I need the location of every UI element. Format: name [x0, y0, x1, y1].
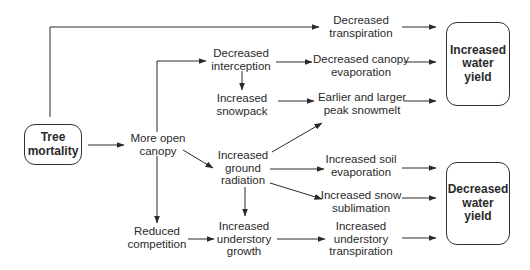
node-more-open-canopy: More open canopy [131, 132, 186, 157]
node-decreased-transpiration: Decreased transpiration [329, 14, 392, 39]
node-increased-snowpack: Increased snowpack [216, 92, 267, 117]
node-label-line: Decreased [329, 14, 392, 27]
node-increased-ground-radiation: Increased ground radiation [218, 149, 269, 187]
node-label-line: canopy [131, 145, 186, 158]
arrow-canopy-to-interception [157, 61, 206, 132]
node-increased-understory-growth: Increased understory growth [217, 220, 271, 258]
node-label-line: radiation [218, 174, 269, 187]
node-label-line: Increased [329, 220, 392, 233]
node-label-line: interception [211, 60, 270, 73]
node-increased-understory-transpiration: Increased understory transpiration [329, 220, 392, 258]
node-label-line: Increased soil [326, 153, 397, 166]
node-tree-mortality: Tree mortality [24, 124, 82, 165]
node-label-line: yield [448, 210, 509, 224]
node-label-line: yield [450, 71, 506, 85]
node-label-line: sublimation [321, 202, 402, 215]
node-label-line: competition [128, 238, 187, 251]
node-label-line: Increased [216, 92, 267, 105]
node-label-line: peak snowmelt [318, 104, 406, 117]
node-label-line: Earlier and larger [318, 91, 406, 104]
node-label-line: evaporation [326, 166, 397, 179]
node-label-line: understory [329, 233, 392, 246]
node-label-line: water [450, 57, 506, 71]
node-label-line: snowpack [216, 105, 267, 118]
node-label-line: Tree [28, 131, 79, 145]
node-increased-snow-sublimation: Increased snow sublimation [321, 189, 402, 214]
node-reduced-competition: Reduced competition [128, 225, 187, 250]
node-label-line: Increased [218, 149, 269, 162]
node-earlier-larger-peak-snowmelt: Earlier and larger peak snowmelt [318, 91, 406, 116]
node-label-line: Increased [217, 220, 271, 233]
node-label-line: Increased snow [321, 189, 402, 202]
arrow-canopy-to-radiation [183, 150, 213, 168]
node-label-line: ground [218, 162, 269, 175]
node-label-line: Decreased [211, 47, 270, 60]
arrow-radiation-to-snowmelt [272, 123, 322, 152]
node-label-line: growth [217, 245, 271, 258]
node-decreased-canopy-evaporation: Decreased canopy evaporation [313, 53, 409, 78]
node-label-line: water [448, 197, 509, 211]
node-label-line: More open [131, 132, 186, 145]
node-label-line: transpiration [329, 245, 392, 258]
node-decreased-water-yield: Decreased water yield [446, 162, 510, 245]
arrow-radiation-to-sublimation [270, 183, 322, 199]
node-label-line: evaporation [313, 66, 409, 79]
node-increased-soil-evaporation: Increased soil evaporation [326, 153, 397, 178]
node-label-line: Decreased canopy [313, 53, 409, 66]
node-label-line: Reduced [128, 225, 187, 238]
node-label-line: Increased [450, 44, 506, 58]
node-increased-water-yield: Increased water yield [446, 22, 510, 106]
node-label-line: understory [217, 233, 271, 246]
node-label-line: mortality [28, 145, 79, 159]
node-label-line: Decreased [448, 183, 509, 197]
node-label-line: transpiration [329, 27, 392, 40]
node-decreased-interception: Decreased interception [211, 47, 270, 72]
arrow-mortality-to-transpiration [50, 27, 319, 117]
